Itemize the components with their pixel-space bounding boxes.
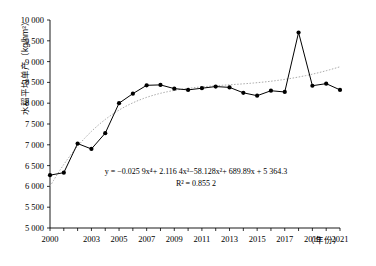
x-tick-label: 2009 [166, 234, 183, 244]
data-point [103, 131, 107, 135]
data-point [338, 88, 342, 92]
y-axis-label-wrap: 水稻平均单产（kg/hm²） [0, 0, 20, 240]
y-axis-label: 水稻平均单产（kg/hm²） [18, 0, 30, 136]
x-tick-label: 2007 [138, 234, 155, 244]
data-point [76, 141, 80, 145]
data-point [131, 92, 135, 96]
data-point [241, 91, 245, 95]
data-point [158, 83, 162, 87]
data-point [227, 85, 231, 89]
y-tick-label: 7 000 [25, 140, 44, 150]
data-point [324, 82, 328, 86]
line-chart-svg: 5 0005 5006 0006 5007 0007 5008 0008 500… [0, 0, 376, 266]
regression-equation-label: y = −0.025 9x⁴+ 2.116 4x³−58.128x²+ 689.… [105, 167, 287, 176]
data-point [269, 89, 273, 93]
x-tick-label: 2005 [111, 234, 128, 244]
data-point [172, 87, 176, 91]
data-point [283, 90, 287, 94]
data-point-group [48, 30, 342, 177]
y-tick-label: 5 000 [25, 223, 44, 233]
x-tick-label: 2017 [276, 234, 293, 244]
data-series-path [50, 32, 340, 175]
data-point [145, 83, 149, 87]
data-point [200, 86, 204, 90]
data-point [186, 88, 190, 92]
r-squared-label: R² = 0.855 2 [176, 179, 216, 188]
x-tick-label: 2000 [42, 234, 59, 244]
y-tick-label: 6 000 [25, 181, 44, 191]
y-tick-label: 5 500 [25, 202, 44, 212]
data-point [62, 171, 66, 175]
data-point [48, 173, 52, 177]
x-axis-unit-label: （年份） [306, 235, 342, 245]
data-point [255, 94, 259, 98]
x-tick-group: 2000200320052007200920112013201520172019… [42, 228, 349, 244]
data-point [117, 101, 121, 105]
data-point [89, 147, 93, 151]
data-point [296, 30, 300, 34]
x-tick-label: 2015 [249, 234, 266, 244]
x-tick-label: 2013 [221, 234, 238, 244]
data-point [214, 84, 218, 88]
y-tick-label: 6 500 [25, 161, 44, 171]
x-tick-label: 2003 [83, 234, 100, 244]
x-tick-label: 2011 [194, 234, 211, 244]
data-point [310, 84, 314, 88]
chart-figure: 水稻平均单产（kg/hm²） 5 0005 5006 0006 5007 000… [0, 0, 376, 266]
